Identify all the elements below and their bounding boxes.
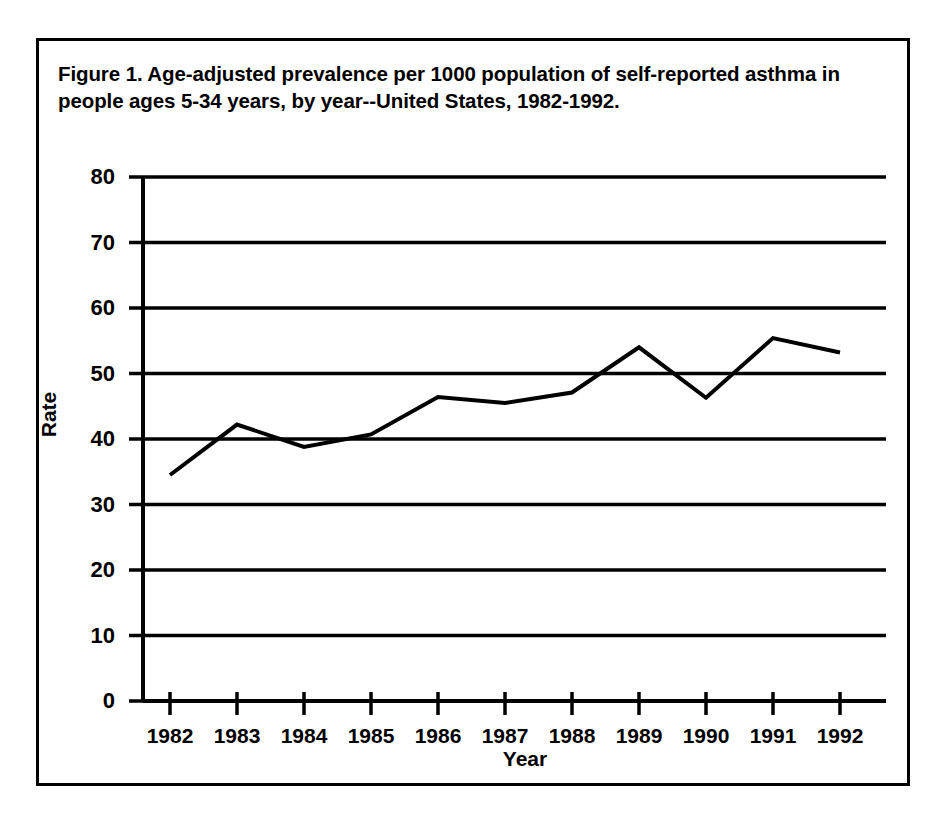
figure-border: [36, 38, 910, 786]
figure-root: Figure 1. Age-adjusted prevalence per 10…: [0, 0, 951, 833]
figure-caption: Figure 1. Age-adjusted prevalence per 10…: [58, 60, 848, 115]
